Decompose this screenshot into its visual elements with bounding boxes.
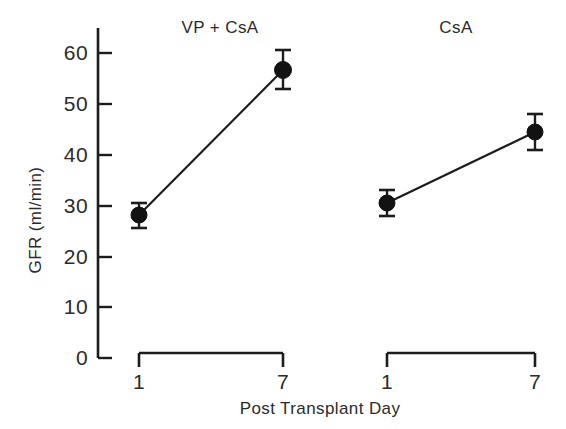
y-tick-label-20: 20 [42,245,88,269]
y-tick-label-30: 30 [42,194,88,218]
y-tick-label-50: 50 [42,92,88,116]
panel2-x-tick-label-1: 1 [372,370,402,394]
panel2-title: CsA [396,18,516,38]
panel2-day1-marker [379,195,395,211]
x-axis-title: Post Transplant Day [200,399,440,419]
panel2-x-tick-label-7: 7 [520,370,550,394]
panel1-day1-marker [131,207,147,223]
panel2-day7-marker [527,124,543,140]
y-axis [98,28,112,358]
panel1-x-tick-label-7: 7 [268,370,298,394]
panel2-series-line [387,132,535,203]
panel1-x-tick-label-1: 1 [124,370,154,394]
panel2-x-axis-bracket [387,353,535,367]
y-tick-label-40: 40 [42,143,88,167]
panel-csa [379,114,543,367]
panel1-title: VP + CsA [150,18,290,38]
gfr-line-chart-figure: 60 50 40 30 20 10 0 GFR (ml/min) VP + Cs… [0,0,566,429]
y-tick-label-60: 60 [42,41,88,65]
panel1-series-line [139,70,283,215]
panel1-day7-marker [275,62,292,79]
y-axis-title: GFR (ml/min) [26,140,46,300]
panel1-x-axis-bracket [139,353,283,367]
y-tick-label-0: 0 [42,346,88,370]
panel-vp-csa [131,50,292,367]
y-tick-label-10: 10 [42,295,88,319]
